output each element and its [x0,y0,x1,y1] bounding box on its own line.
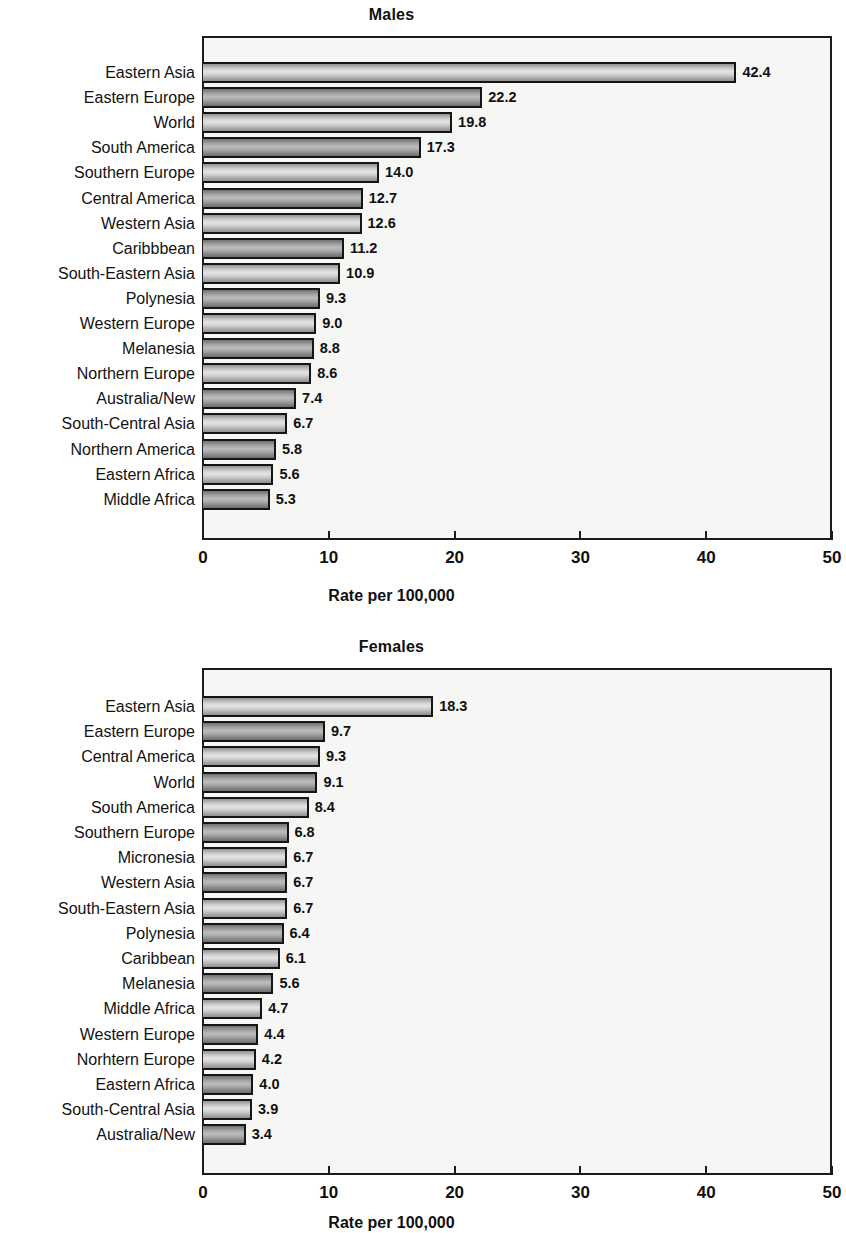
category-label: Middle Africa [0,998,195,1019]
females-plot-area [202,668,832,1175]
males-chart-title: Males [0,6,837,24]
category-label: South-Eastern Asia [0,898,195,919]
bar [203,696,433,717]
x-axis-tick-label: 0 [163,1183,243,1203]
category-label: Melanesia [0,338,195,359]
bar [203,1049,256,1070]
category-label: Eastern Africa [0,464,195,485]
bar [203,413,287,434]
bar-value-label: 12.7 [369,188,397,209]
bar-value-label: 6.4 [290,923,310,944]
x-axis-tick [831,1166,833,1175]
bar-value-label: 7.4 [302,388,322,409]
bar [203,1099,252,1120]
bar-value-label: 9.1 [323,772,343,793]
category-label: South-Central Asia [0,413,195,434]
bar [203,847,287,868]
bar-value-label: 12.6 [368,213,396,234]
bar-value-label: 9.0 [322,313,342,334]
bar [203,1074,253,1095]
bar [203,948,280,969]
category-label: Eastern Europe [0,721,195,742]
bar [203,213,362,234]
males-chart-title-text: Males [369,6,414,23]
bar [203,313,316,334]
x-axis-tick-label: 40 [666,1183,746,1203]
x-axis-tick-label: 20 [415,1183,495,1203]
males-chart-panel: Males 42.422.219.817.314.012.712.611.210… [0,0,837,620]
males-axis-title-text: Rate per 100,000 [328,587,454,604]
category-label: Northern America [0,439,195,460]
bar [203,998,262,1019]
category-label: Eastern Europe [0,87,195,108]
bar-value-label: 9.3 [326,288,346,309]
x-axis-tick [831,531,833,540]
category-label: Western Europe [0,313,195,334]
bar-value-label: 8.8 [320,338,340,359]
bar-value-label: 4.2 [262,1049,282,1070]
bar-value-label: 6.7 [293,413,313,434]
bar-value-label: 3.4 [252,1124,272,1145]
bar-value-label: 9.7 [331,721,351,742]
bar [203,464,273,485]
category-label: Southern Europe [0,822,195,843]
x-axis-tick [454,1166,456,1175]
bar-value-label: 42.4 [742,62,770,83]
bar-value-label: 4.4 [264,1024,284,1045]
x-axis-tick-label: 10 [289,1183,369,1203]
category-label: Eastern Asia [0,696,195,717]
x-axis-tick-label: 50 [792,548,846,568]
category-label: Australia/New [0,1124,195,1145]
females-chart-panel: Females 18.39.79.39.18.46.86.76.76.76.46… [0,632,837,1233]
bar-value-label: 5.6 [279,973,299,994]
bar-value-label: 22.2 [488,87,516,108]
bar [203,439,276,460]
category-label: Western Asia [0,872,195,893]
category-label: Southern Europe [0,162,195,183]
bar [203,973,273,994]
x-axis-tick [705,1166,707,1175]
category-label: Western Europe [0,1024,195,1045]
bar-value-label: 11.2 [350,238,377,259]
bar [203,338,314,359]
category-label: Caribbbean [0,238,195,259]
bar [203,746,320,767]
category-label: Middle Africa [0,489,195,510]
category-label: Northern Europe [0,363,195,384]
bar [203,288,320,309]
bar [203,1124,246,1145]
bar-value-label: 9.3 [326,746,346,767]
bar [203,822,289,843]
bar-value-label: 5.3 [276,489,296,510]
category-label: South America [0,797,195,818]
bar [203,721,325,742]
category-label: Eastern Asia [0,62,195,83]
bar-value-label: 6.7 [293,847,313,868]
category-label: Eastern Africa [0,1074,195,1095]
bar-value-label: 5.8 [282,439,302,460]
category-label: South-Central Asia [0,1099,195,1120]
bar [203,188,363,209]
x-axis-tick-label: 50 [792,1183,846,1203]
females-chart-title: Females [0,638,837,656]
bar-value-label: 6.1 [286,948,306,969]
x-axis-tick [328,531,330,540]
category-label: Polynesia [0,288,195,309]
x-axis-tick-label: 40 [666,548,746,568]
category-label: World [0,112,195,133]
bar-value-label: 4.7 [268,998,288,1019]
females-axis-title: Rate per 100,000 [0,1214,837,1232]
category-label: World [0,772,195,793]
bar-value-label: 19.8 [458,112,486,133]
category-label: South-Eastern Asia [0,263,195,284]
bar-value-label: 18.3 [439,696,467,717]
bar [203,772,317,793]
bar [203,87,482,108]
category-label: Polynesia [0,923,195,944]
category-label: Micronesia [0,847,195,868]
bar-value-label: 10.9 [346,263,374,284]
bar [203,62,736,83]
category-label: Caribbean [0,948,195,969]
category-label: Australia/New [0,388,195,409]
bar [203,797,309,818]
